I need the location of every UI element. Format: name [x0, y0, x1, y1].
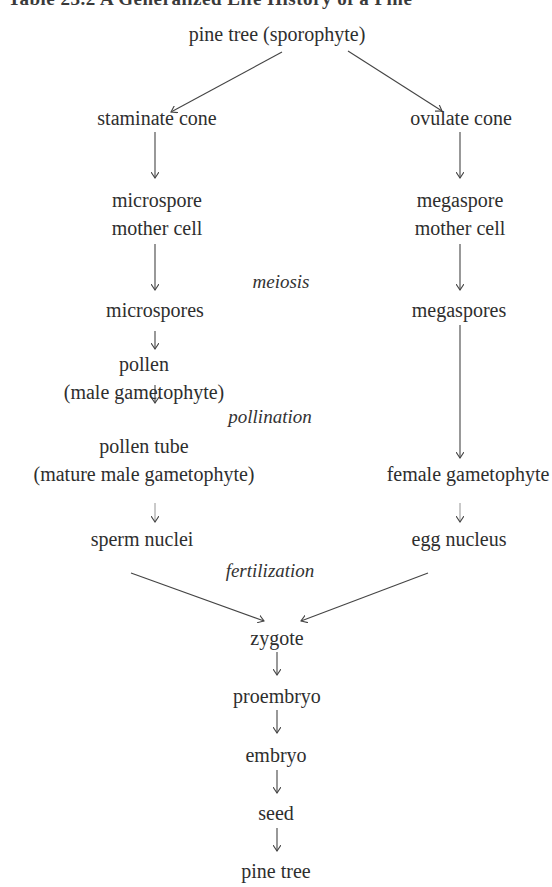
node-pollen-line2: (male gametophyte) [64, 378, 225, 406]
arrow-sporophyte-to-staminate [171, 52, 282, 112]
node-female-gametophyte: female gametophyte [387, 460, 550, 488]
node-staminate-cone: staminate cone [97, 104, 216, 132]
node-megaspore-mother-cell-line2: mother cell [415, 214, 506, 242]
node-pollen-tube: pollen tube (mature male gametophyte) [33, 432, 254, 488]
node-megaspores: megaspores [412, 296, 506, 324]
node-megaspore-mother-cell-line1: megaspore [415, 186, 506, 214]
node-proembryo: proembryo [233, 682, 321, 710]
node-microspore-mother-cell-line2: mother cell [112, 214, 203, 242]
label-pollination: pollination [228, 406, 311, 428]
node-pollen-tube-line1: pollen tube [33, 432, 254, 460]
node-microspore-mother-cell-line1: microspore [112, 186, 203, 214]
table-title: Table 23.2 A Generalized Life History of… [8, 0, 412, 10]
label-fertilization: fertilization [226, 560, 315, 582]
node-seed: seed [258, 799, 294, 827]
node-ovulate-cone: ovulate cone [410, 104, 512, 132]
node-microspore-mother-cell: microspore mother cell [112, 186, 203, 242]
node-egg-nucleus: egg nucleus [412, 525, 507, 553]
arrow-sporophyte-to-ovulate [348, 51, 442, 111]
node-pollen-line1: pollen [64, 350, 225, 378]
node-embryo: embryo [245, 741, 306, 769]
node-pine-tree-sporophyte: pine tree (sporophyte) [189, 20, 366, 48]
node-megaspore-mother-cell: megaspore mother cell [415, 186, 506, 242]
node-pollen-tube-line2: (mature male gametophyte) [33, 460, 254, 488]
arrow-egg-to-zygote [301, 573, 428, 621]
node-microspores: microspores [106, 296, 204, 324]
node-pollen: pollen (male gametophyte) [64, 350, 225, 406]
label-meiosis: meiosis [253, 271, 310, 293]
node-sperm-nuclei: sperm nuclei [91, 525, 194, 553]
node-zygote: zygote [250, 624, 303, 652]
node-pine-tree: pine tree [241, 857, 310, 885]
